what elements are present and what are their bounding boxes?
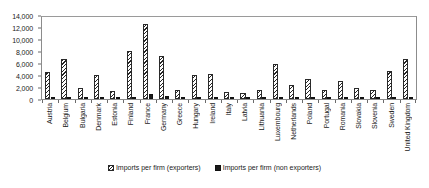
legend-label: Imports per firm (non exporters)	[223, 164, 321, 172]
x-axis-tick-label: Italy	[225, 103, 233, 115]
bar-exporters	[94, 75, 99, 99]
bar-exporters	[354, 88, 359, 99]
x-axis-tick-label: Luxembourg	[274, 103, 282, 141]
bar-group	[302, 17, 318, 99]
y-axis-tick-label: 14,000	[12, 13, 33, 20]
bar-exporters	[61, 59, 66, 99]
y-axis-tick-label: 6,000	[16, 61, 33, 68]
bar-group	[253, 17, 269, 99]
bar-group	[205, 17, 221, 99]
x-axis-tick-label: Slovakia	[355, 103, 363, 129]
bar-exporters	[159, 56, 164, 99]
chart-container: 02,0004,0006,0008,00010,00012,00014,000 …	[0, 0, 429, 188]
bar-exporters	[143, 24, 148, 99]
x-axis-tick-label: Sweden	[388, 103, 396, 128]
y-axis-tick-label: 0	[29, 97, 33, 104]
x-axis-tick-label: Estonia	[111, 103, 119, 126]
x-axis-tick-label: Germany	[160, 103, 168, 131]
bar-group	[286, 17, 302, 99]
bar-group	[318, 17, 334, 99]
x-axis-tick-label: Hungary	[192, 103, 200, 129]
chart-legend: Imports per firm (exporters)Imports per …	[0, 164, 429, 172]
x-axis-tick-label: Romania	[339, 103, 347, 130]
x-axis-tick-label: Denmark	[95, 103, 103, 131]
x-axis-tick-label: Poland	[306, 103, 314, 124]
bar-non-exporters	[246, 97, 250, 99]
bar-non-exporters	[230, 97, 234, 99]
bar-exporters	[45, 72, 50, 99]
bar-group	[400, 17, 416, 99]
bar-group	[172, 17, 188, 99]
x-axis-tick-label: Austria	[46, 103, 54, 124]
bar-group	[140, 17, 156, 99]
bar-exporters	[127, 51, 132, 99]
bar-non-exporters	[311, 97, 315, 99]
x-axis-tick-label: Portugal	[323, 103, 331, 128]
bar-exporters	[322, 90, 327, 99]
y-axis-tick-label: 12,000	[12, 25, 33, 32]
bar-exporters	[110, 91, 115, 99]
bar-group	[335, 17, 351, 99]
x-axis-labels: AustriaBelgiumBulgariaDenmarkEstoniaFinl…	[42, 103, 416, 159]
y-axis-tick-label: 10,000	[12, 37, 33, 44]
bar-exporters	[403, 59, 408, 99]
bar-group	[367, 17, 383, 99]
bar-group	[351, 17, 367, 99]
y-axis-tick-label: 4,000	[16, 73, 33, 80]
y-axis-tick-label: 2,000	[16, 85, 33, 92]
bar-exporters	[273, 64, 278, 99]
bar-exporters	[224, 92, 229, 99]
y-axis-tick-label: 8,000	[16, 49, 33, 56]
bar-exporters	[289, 85, 294, 99]
bar-group	[237, 17, 253, 99]
bar-group	[58, 17, 74, 99]
bar-non-exporters	[214, 97, 218, 99]
bar-group	[221, 17, 237, 99]
bar-non-exporters	[262, 97, 266, 99]
bar-exporters	[208, 74, 213, 99]
bar-group	[75, 17, 91, 99]
bar-non-exporters	[132, 97, 136, 99]
bars-layer	[42, 17, 416, 99]
x-axis-tick-label: Lithuania	[258, 103, 266, 131]
bar-non-exporters	[67, 97, 71, 99]
x-axis-tick-label: Netherlands	[290, 103, 298, 140]
legend-swatch-solid-icon	[215, 165, 221, 171]
x-axis-tick-label: Slovenia	[371, 103, 379, 129]
legend-swatch-hatched-icon	[108, 165, 114, 171]
bar-exporters	[78, 88, 83, 99]
bar-group	[42, 17, 58, 99]
bar-exporters	[192, 75, 197, 99]
bar-exporters	[240, 93, 245, 99]
bar-non-exporters	[279, 97, 283, 99]
bar-group	[188, 17, 204, 99]
legend-label: Imports per firm (exporters)	[116, 164, 201, 172]
bar-non-exporters	[295, 97, 299, 99]
bar-non-exporters	[327, 97, 331, 99]
bar-non-exporters	[84, 97, 88, 99]
bar-non-exporters	[51, 97, 55, 99]
bar-non-exporters	[197, 97, 201, 99]
x-axis-tick-label: Belgium	[62, 103, 70, 128]
legend-item: Imports per firm (exporters)	[108, 164, 201, 172]
bar-non-exporters	[116, 97, 120, 99]
x-axis-tick-label: United Kingdom	[404, 103, 412, 151]
bar-exporters	[387, 71, 392, 99]
bar-group	[107, 17, 123, 99]
bar-group	[123, 17, 139, 99]
bar-exporters	[175, 90, 180, 99]
bar-non-exporters	[100, 97, 104, 99]
bar-exporters	[370, 90, 375, 99]
bar-non-exporters	[165, 96, 169, 99]
bar-exporters	[305, 79, 310, 99]
bar-exporters	[338, 81, 343, 99]
bar-group	[383, 17, 399, 99]
y-axis: 02,0004,0006,0008,00010,00012,00014,000	[0, 16, 38, 100]
bar-non-exporters	[409, 97, 413, 99]
x-axis-tick-label: France	[144, 103, 152, 124]
x-axis-tick-label: Bulgaria	[79, 103, 87, 128]
bar-group	[156, 17, 172, 99]
bar-non-exporters	[360, 97, 364, 99]
x-axis-tick-label: Latvia	[241, 103, 249, 121]
bar-non-exporters	[376, 97, 380, 99]
